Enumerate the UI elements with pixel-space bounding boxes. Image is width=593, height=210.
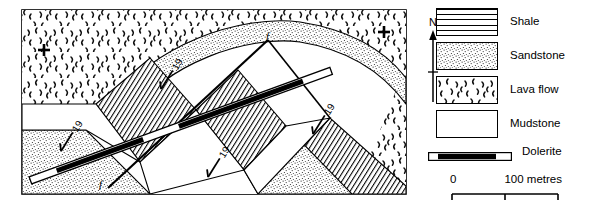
- legend-item-lavaflow: Lava flow: [436, 76, 559, 104]
- legend-panel: Shale: [418, 0, 593, 210]
- legend-swatch-dolerite: [428, 147, 512, 156]
- legend-swatch-shale: [436, 8, 498, 36]
- geological-map: 19 19 19 19 f f: [0, 0, 418, 206]
- scale-start-label: 0: [450, 173, 456, 185]
- legend-label-shale: Shale: [510, 16, 539, 28]
- scale-end-label: 100 metres: [504, 173, 562, 185]
- legend-label-sandstone: Sandstone: [510, 50, 565, 62]
- legend-label-lavaflow: Lava flow: [510, 84, 559, 96]
- figure-root: 19 19 19 19 f f N: [0, 0, 593, 210]
- scale-bar: 0 100 metres: [446, 172, 586, 204]
- legend-item-sandstone: Sandstone: [436, 42, 565, 70]
- map-svg: 19 19 19 19 f f: [0, 0, 418, 206]
- legend-swatch-sandstone: [436, 42, 498, 70]
- legend-item-dolerite: Dolerite: [428, 146, 562, 158]
- legend-swatch-mudstone: [436, 110, 498, 138]
- legend-label-mudstone: Mudstone: [510, 118, 561, 130]
- legend-label-dolerite: Dolerite: [522, 146, 562, 158]
- legend-item-mudstone: Mudstone: [436, 110, 561, 138]
- legend-swatch-lavaflow: [436, 76, 498, 104]
- legend-item-shale: Shale: [436, 8, 539, 36]
